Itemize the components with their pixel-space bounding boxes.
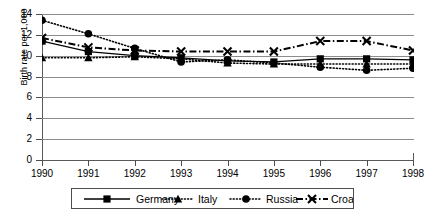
data-point: [363, 67, 371, 75]
x-axis-tick-label: 1998: [391, 168, 429, 179]
x-axis-tick: [42, 160, 43, 166]
x-axis-tick-label: 1994: [206, 168, 250, 179]
x-axis-tick-label: 1993: [159, 168, 203, 179]
legend-label-italy: Italy: [198, 193, 218, 205]
y-axis-tick-label: 10: [6, 51, 32, 61]
legend-label-croatia: Croatia: [331, 193, 353, 205]
legend-marker-russia: [242, 195, 250, 203]
x-axis-tick-label: 1992: [113, 168, 157, 179]
x-axis-tick-label: 1995: [252, 168, 296, 179]
x-axis-tick: [181, 160, 182, 166]
series-line: [42, 38, 413, 52]
data-point: [42, 16, 46, 24]
x-axis-tick: [413, 160, 414, 166]
x-axis-tick: [320, 160, 321, 166]
chart-legend: GermanyItalyRussiaCroatia: [71, 188, 354, 209]
y-axis-tick-label: 4: [6, 113, 32, 123]
x-axis-tick: [228, 160, 229, 166]
x-axis-tick-label: 1990: [20, 168, 64, 179]
y-axis-tick-label: 12: [6, 30, 32, 40]
x-axis-tick-label: 1997: [345, 168, 389, 179]
data-point: [316, 63, 324, 71]
data-point: [177, 58, 185, 66]
x-axis-tick: [88, 160, 89, 166]
y-axis-tick-label: 2: [6, 134, 32, 144]
data-point: [316, 37, 324, 45]
data-point: [85, 30, 93, 38]
y-axis-tick-label: 8: [6, 72, 32, 82]
x-axis-tick: [274, 160, 275, 166]
series-lines: [42, 14, 414, 160]
data-point: [270, 59, 278, 67]
y-axis-tick-label: 14: [6, 9, 32, 19]
plot-area: [42, 14, 414, 160]
x-axis-tick: [135, 160, 136, 166]
x-axis-tick: [367, 160, 368, 166]
data-point: [224, 56, 232, 64]
x-axis-tick-label: 1991: [66, 168, 110, 179]
legend-marker-germany: [103, 195, 110, 202]
y-axis-tick-label: 0: [6, 155, 32, 165]
legend-label-russia: Russia: [266, 193, 298, 205]
y-axis-tick-label: 6: [6, 92, 32, 102]
x-axis-tick-label: 1996: [298, 168, 342, 179]
legend-symbols: GermanyItalyRussiaCroatia: [72, 189, 353, 208]
